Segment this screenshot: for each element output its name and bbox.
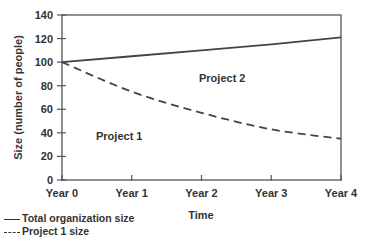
- y-tick-label: 80: [41, 80, 53, 92]
- x-tick-label: Year 0: [46, 187, 78, 199]
- y-tick-label: 20: [41, 150, 53, 162]
- x-tick-label: Year 1: [116, 187, 148, 199]
- line-chart: 020406080100120140Year 0Year 1Year 2Year…: [0, 0, 368, 242]
- legend-item-total: Total organization size: [4, 212, 134, 224]
- x-tick-label: Year 3: [255, 187, 287, 199]
- y-tick-label: 60: [41, 103, 53, 115]
- dashed-line-swatch-icon: [4, 232, 20, 233]
- y-tick-label: 100: [35, 56, 53, 68]
- annotation-project-1: Project 1: [96, 130, 142, 142]
- plot-frame: [62, 15, 341, 180]
- y-tick-label: 120: [35, 33, 53, 45]
- legend-label-total: Total organization size: [22, 212, 134, 224]
- y-tick-label: 0: [47, 174, 53, 186]
- legend-item-project1: Project 1 size: [4, 225, 89, 237]
- annotation-project-2: Project 2: [199, 72, 245, 84]
- x-tick-label: Year 4: [325, 187, 358, 199]
- solid-line-swatch-icon: [4, 219, 20, 220]
- legend-label-project1: Project 1 size: [22, 225, 89, 237]
- series-total-organization-size: [62, 37, 341, 62]
- x-tick-label: Year 2: [185, 187, 217, 199]
- y-tick-label: 140: [35, 9, 53, 21]
- y-axis-label: Size (number of people): [12, 35, 24, 160]
- x-axis-label: Time: [188, 209, 213, 221]
- y-tick-label: 40: [41, 127, 53, 139]
